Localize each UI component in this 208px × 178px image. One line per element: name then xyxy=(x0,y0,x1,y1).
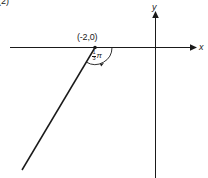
x-axis xyxy=(10,44,197,51)
part-label: (2) xyxy=(0,0,9,6)
y-axis-arrowhead xyxy=(152,11,159,18)
angle-fraction-denominator: 3 xyxy=(92,56,96,62)
x-axis-arrowhead xyxy=(190,44,197,51)
angle-fraction: 1 3 xyxy=(92,50,96,62)
point-coordinate-label: (-2,0) xyxy=(77,33,97,42)
x-axis-label: x xyxy=(199,43,204,52)
plotted-line xyxy=(22,48,95,171)
y-axis-label: y xyxy=(152,3,157,12)
y-axis xyxy=(152,11,159,178)
coordinate-geometry-figure: (2) (-2,0) x y 1 3 π xyxy=(0,0,208,178)
pi-symbol: π xyxy=(97,52,102,60)
figure-canvas xyxy=(0,0,208,178)
inclination-angle-label: 1 3 π xyxy=(92,50,102,62)
